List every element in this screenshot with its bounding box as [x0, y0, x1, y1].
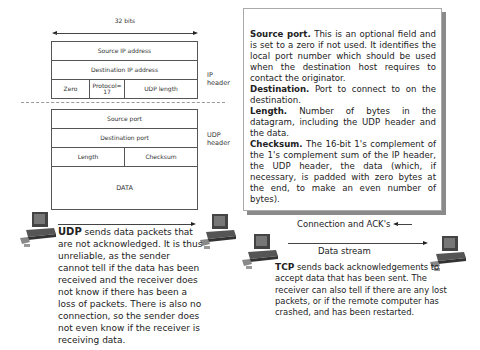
ip-destination-address-field: Destination IP address [51, 60, 198, 80]
udp-checksum-field: Checksum [124, 147, 198, 167]
desktop-computer-icon [18, 210, 58, 250]
field-descriptions: Source port. This is an optional field a… [250, 29, 436, 205]
desc-destination: Destination. Port to connect to on the d… [250, 84, 436, 106]
header-separator [21, 102, 225, 103]
udp-data-field: DATA [51, 166, 198, 210]
desc-source-port: Source port. This is an optional field a… [250, 29, 436, 84]
tcp-description: TCP sends back acknowledgements to accep… [275, 262, 460, 318]
ip-source-address-field: Source IP address [51, 41, 198, 61]
udp-source-port-field: Source port [51, 109, 198, 129]
zero-field: Zero [51, 79, 90, 99]
udp-destination-port-field: Destination port [51, 128, 198, 148]
udp-title: UDP [58, 226, 82, 237]
protocol-field: Protocol= 17 [89, 79, 125, 99]
desc-length: Length. Number of bytes in the datagram,… [250, 106, 436, 139]
udp-description: UDP sends data packets that are not ackn… [58, 226, 203, 346]
desktop-computer-icon [198, 212, 238, 252]
udp-header-label: UDP header [207, 132, 231, 147]
desktop-computer-icon [240, 232, 280, 272]
data-stream-label: Data stream [318, 246, 371, 256]
udp-length-field: UDP length [124, 79, 198, 99]
desc-checksum: Checksum. The 16-bit 1's complement of t… [250, 139, 436, 205]
udp-length-field-cell: Length [51, 147, 125, 167]
width-label: 32 bits [110, 17, 140, 24]
ip-header-label: IP header [207, 72, 229, 87]
tcp-title: TCP [275, 262, 294, 272]
field-description-box: Source port. This is an optional field a… [243, 8, 442, 211]
connection-ack-label: Connection and ACK's [297, 219, 390, 229]
